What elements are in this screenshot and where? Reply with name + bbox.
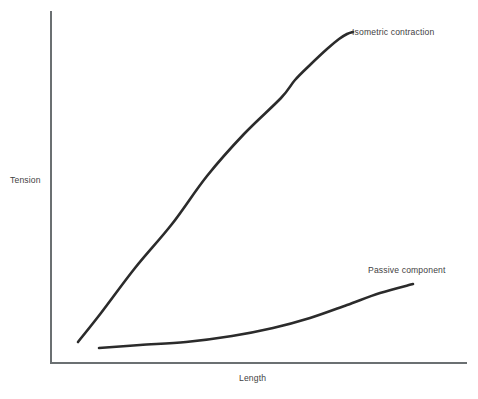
annotation-passive-component: Passive component xyxy=(368,265,446,275)
x-axis-label: Length xyxy=(239,373,266,383)
y-axis-label: Tension xyxy=(10,175,41,185)
annotation-isometric-contraction: Isometric contraction xyxy=(352,27,434,37)
chart-canvas xyxy=(0,0,478,399)
page-bottom-margin xyxy=(0,392,478,399)
chart-page: Isometric contraction Passive component … xyxy=(0,0,478,399)
curve-passive-component xyxy=(99,284,413,348)
curve-isometric-contraction xyxy=(78,32,353,342)
